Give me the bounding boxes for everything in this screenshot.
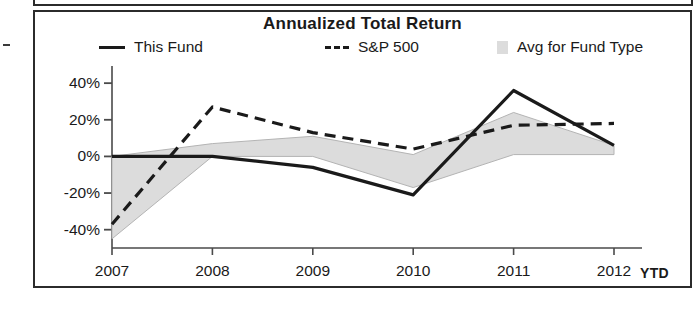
- series-band-avg-for-fund-type: [112, 112, 614, 238]
- scan-artifact-top-box: [33, 0, 693, 6]
- plot-svg: [35, 12, 694, 290]
- x-axis-tick-label: 2007: [95, 262, 129, 280]
- y-axis-tick-label: -40%: [38, 221, 100, 239]
- x-axis-tick-label: 2012: [597, 262, 631, 280]
- x-axis-tick-label: 2010: [396, 262, 430, 280]
- chart-panel: Annualized Total Return This Fund S&P 50…: [33, 10, 692, 288]
- x-axis-tick-label: 2008: [195, 262, 229, 280]
- y-axis-tick-label: 40%: [38, 74, 100, 92]
- y-axis-tick-label: 20%: [38, 111, 100, 129]
- margin-tick-mark: [3, 44, 10, 46]
- y-axis-tick-label: 0%: [38, 147, 100, 165]
- x-axis-ytd-label: YTD: [640, 265, 669, 281]
- x-axis-tick-label: 2011: [497, 262, 530, 280]
- plot-area: 40%20%0%-20%-40% 20072008200920102011201…: [35, 12, 694, 290]
- x-axis-tick-label: 2009: [296, 262, 330, 280]
- y-axis-tick-label: -20%: [38, 184, 100, 202]
